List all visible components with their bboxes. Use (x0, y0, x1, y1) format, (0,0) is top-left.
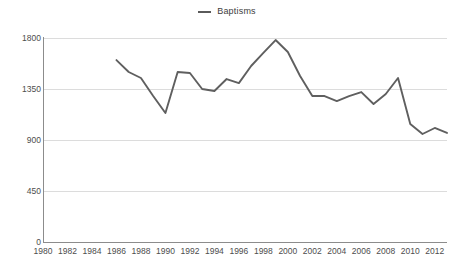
series-layer (0, 0, 454, 270)
series-line-baptisms (116, 40, 447, 134)
chart-container: Baptisms 1800 1350 900 450 0 19801982198… (0, 0, 454, 270)
